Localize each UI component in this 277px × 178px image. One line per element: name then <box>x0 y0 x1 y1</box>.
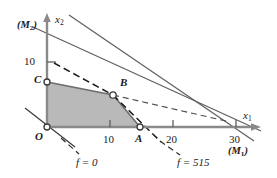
vertex-label-c: C <box>34 74 41 85</box>
constraint-label-m1: (M1) <box>228 146 248 158</box>
constraint-label-m2-text: (M <box>17 19 30 30</box>
objective-label-f0: f = 0 <box>76 157 97 168</box>
constraint-label-m1-sub: 1 <box>241 150 245 158</box>
leader-line-f0 <box>61 138 79 154</box>
vertex-label-a: A <box>135 133 142 144</box>
y-axis-arrowhead <box>43 13 51 22</box>
vertex-marker-b <box>110 92 116 98</box>
vertex-label-o: O <box>35 131 43 142</box>
constraint-label-m1-text: (M <box>228 145 241 156</box>
vertex-marker-c <box>44 79 50 85</box>
y-tick-label-10: 10 <box>24 56 35 67</box>
objective-label-f515: f = 515 <box>177 157 209 168</box>
vertex-label-b: B <box>120 77 127 88</box>
vertex-marker-a <box>137 124 143 130</box>
constraint-label-m2: (M2) <box>17 20 37 32</box>
x-axis-label-sub: 1 <box>248 114 252 123</box>
constraint-label-m2-sub: 2 <box>30 24 34 32</box>
y-axis-label: x2 <box>55 14 64 27</box>
x-tick-label-30: 30 <box>229 134 240 145</box>
y-axis-label-sub: 2 <box>60 18 64 27</box>
figure-container: (M2) (M1) x2 x1 10 10 20 30 O A B C f = … <box>0 0 277 178</box>
feasible-region-polygon <box>47 82 140 127</box>
x-tick-label-20: 20 <box>166 134 177 145</box>
x-tick-label-10: 10 <box>103 134 114 145</box>
vertex-marker-o <box>44 124 50 130</box>
x-axis-label: x1 <box>243 110 252 123</box>
